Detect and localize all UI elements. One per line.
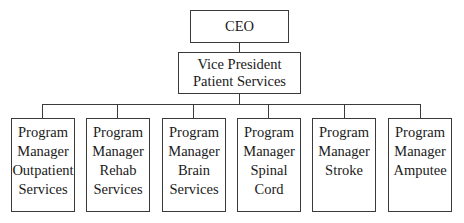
child-label-line: Manager bbox=[168, 142, 220, 161]
child-box-amputee: Program Manager Amputee bbox=[388, 118, 452, 212]
child-label-line: Program bbox=[169, 123, 219, 142]
child-label-line: Manager bbox=[92, 142, 144, 161]
child-box-outpatient: Program Manager Outpatient Services bbox=[11, 118, 75, 212]
child-label-line: Program bbox=[395, 123, 445, 142]
connector-drop-3 bbox=[193, 104, 194, 118]
child-box-stroke: Program Manager Stroke bbox=[312, 118, 376, 212]
connector-bus bbox=[42, 104, 421, 105]
child-label-line: Amputee bbox=[393, 161, 446, 180]
child-label-line: Services bbox=[169, 180, 218, 199]
connector-ceo-vp bbox=[239, 43, 240, 52]
child-label-line: Cord bbox=[255, 180, 284, 199]
child-label-line: Program bbox=[319, 123, 369, 142]
connector-drop-1 bbox=[42, 104, 43, 118]
child-box-rehab: Program Manager Rehab Services bbox=[86, 118, 150, 212]
child-label-line: Brain bbox=[178, 161, 210, 180]
child-label-line: Manager bbox=[17, 142, 69, 161]
child-label-line: Program bbox=[244, 123, 294, 142]
child-box-spinal-cord: Program Manager Spinal Cord bbox=[237, 118, 301, 212]
child-label-line: Spinal bbox=[250, 161, 287, 180]
child-label-line: Manager bbox=[394, 142, 446, 161]
child-box-brain: Program Manager Brain Services bbox=[162, 118, 226, 212]
child-label-line: Services bbox=[93, 180, 142, 199]
connector-vp-bus bbox=[239, 94, 240, 104]
ceo-label: CEO bbox=[225, 17, 254, 36]
connector-drop-5 bbox=[344, 104, 345, 118]
child-label-line: Manager bbox=[318, 142, 370, 161]
ceo-box: CEO bbox=[190, 10, 289, 43]
connector-drop-4 bbox=[268, 104, 269, 118]
connector-drop-6 bbox=[420, 104, 421, 118]
child-label-line: Program bbox=[18, 123, 68, 142]
vp-label-line1: Vice President bbox=[197, 56, 281, 73]
child-label-line: Program bbox=[93, 123, 143, 142]
child-label-line: Stroke bbox=[325, 161, 363, 180]
vp-box: Vice President Patient Services bbox=[178, 52, 301, 94]
child-label-line: Manager bbox=[243, 142, 295, 161]
connector-drop-2 bbox=[117, 104, 118, 118]
child-label-line: Services bbox=[18, 180, 67, 199]
child-label-line: Outpatient bbox=[12, 161, 73, 180]
child-label-line: Rehab bbox=[99, 161, 136, 180]
vp-label-line2: Patient Services bbox=[193, 73, 286, 90]
